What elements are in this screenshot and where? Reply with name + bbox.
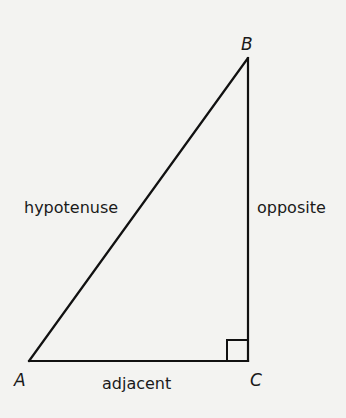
diagram-canvas: B A C hypotenuse opposite adjacent	[0, 0, 346, 418]
vertex-label-a: A	[13, 370, 26, 390]
hypotenuse-label: hypotenuse	[24, 198, 118, 217]
vertex-label-c: C	[250, 370, 262, 390]
adjacent-label: adjacent	[102, 374, 171, 393]
opposite-label: opposite	[257, 198, 326, 217]
right-triangle-diagram: B A C hypotenuse opposite adjacent	[0, 0, 346, 418]
right-angle-marker	[227, 340, 248, 361]
vertex-label-b: B	[241, 34, 253, 54]
